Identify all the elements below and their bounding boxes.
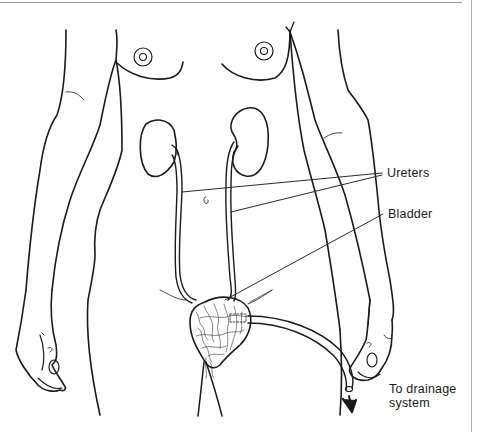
left-breast bbox=[117, 48, 183, 79]
label-drainage-system: To drainage system bbox=[389, 382, 469, 410]
right-hand bbox=[350, 300, 393, 380]
torso-lines bbox=[160, 290, 272, 304]
right-arm bbox=[290, 30, 393, 415]
drainage-arrow bbox=[343, 396, 356, 412]
label-bladder: Bladder bbox=[388, 207, 433, 221]
label-ureters: Ureters bbox=[387, 166, 429, 180]
right-kidney bbox=[231, 108, 268, 176]
left-hand bbox=[16, 290, 65, 391]
leader-lines bbox=[182, 173, 383, 302]
urethral-lines bbox=[198, 362, 222, 416]
label-drainage-line1: To drainage bbox=[389, 382, 469, 396]
bladder bbox=[190, 297, 251, 378]
diagram-canvas: Ureters Bladder To drainage system bbox=[0, 0, 477, 432]
left-arm bbox=[26, 30, 122, 415]
label-drainage-line2: system bbox=[389, 396, 469, 410]
ureters bbox=[172, 142, 238, 303]
right-breast bbox=[222, 22, 294, 80]
left-kidney bbox=[140, 120, 178, 176]
drainage-tube bbox=[248, 316, 353, 392]
